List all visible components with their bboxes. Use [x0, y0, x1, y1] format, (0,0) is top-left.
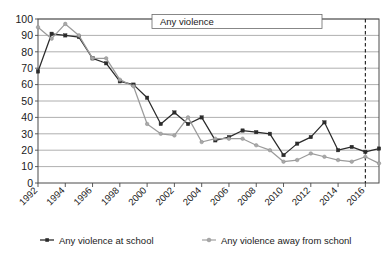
data-point-marker — [336, 158, 340, 162]
data-point-marker — [159, 122, 162, 125]
data-point-marker — [295, 142, 298, 145]
data-point-marker — [132, 84, 136, 88]
data-point-marker — [377, 162, 381, 166]
data-point-marker — [186, 116, 190, 120]
data-point-marker — [323, 121, 326, 124]
x-axis-tick-label: 2004 — [180, 185, 203, 208]
y-axis-tick-label: 100 — [15, 13, 33, 25]
data-point-marker — [295, 158, 299, 162]
y-axis-tick-label: 10 — [21, 160, 33, 172]
data-point-marker — [145, 122, 149, 126]
gridlines-group: 0102030405060708090100 — [15, 13, 379, 189]
data-point-marker — [50, 37, 54, 41]
chart-title-group: Any violence — [152, 15, 322, 29]
data-point-marker — [241, 137, 245, 141]
data-point-marker — [227, 137, 231, 141]
data-point-marker — [63, 22, 67, 26]
x-axis-tick-label: 1992 — [17, 185, 40, 208]
y-axis-tick-label: 70 — [21, 62, 33, 74]
x-axis-tick-label: 2000 — [126, 185, 149, 208]
data-point-marker — [36, 70, 39, 73]
y-axis-tick-label: 20 — [21, 144, 33, 156]
data-point-marker — [64, 34, 67, 37]
legend-group: Any violence at schoolAny violence away … — [40, 235, 351, 246]
data-point-marker — [282, 160, 286, 164]
data-point-marker — [255, 130, 258, 133]
y-axis-tick-label: 30 — [21, 128, 33, 140]
data-point-marker — [105, 62, 108, 65]
data-point-marker — [77, 34, 81, 38]
series-line-2 — [38, 24, 379, 163]
data-point-marker — [159, 132, 163, 136]
legend-item[interactable]: Any violence away from schonl — [202, 235, 351, 246]
x-axis-tick-label: 2006 — [208, 185, 231, 208]
x-axis-tick-label: 1998 — [99, 185, 122, 208]
data-point-marker — [323, 155, 327, 159]
data-point-marker — [364, 155, 368, 159]
y-axis-tick-label: 90 — [21, 29, 33, 41]
data-point-marker — [268, 148, 272, 152]
legend-item-label: Any violence at school — [59, 235, 154, 246]
line-chart: 0102030405060708090100199219941996199820… — [0, 0, 388, 259]
y-axis-tick-label: 80 — [21, 46, 33, 58]
data-point-marker — [282, 153, 285, 156]
data-point-marker — [91, 57, 95, 61]
x-axis-tick-label: 2008 — [235, 185, 258, 208]
data-point-marker — [200, 140, 204, 144]
y-axis-tick-label: 60 — [21, 78, 33, 90]
data-point-marker — [254, 143, 258, 147]
data-point-marker — [309, 152, 313, 156]
x-axis-tick-label: 1994 — [44, 185, 67, 208]
data-point-marker — [173, 134, 177, 138]
y-axis-tick-label: 50 — [21, 95, 33, 107]
y-axis-tick-label: 40 — [21, 111, 33, 123]
x-axis-tick-label: 2014 — [317, 185, 340, 208]
x-axis-tick-label: 2010 — [262, 185, 285, 208]
x-axis-group: 1992199419961998200020022004200620082010… — [17, 183, 367, 207]
legend-swatch-marker — [207, 238, 211, 242]
legend-item-label: Any violence away from schonl — [221, 235, 351, 246]
data-point-marker — [377, 147, 380, 150]
data-point-marker — [350, 145, 353, 148]
chart-container: 0102030405060708090100199219941996199820… — [0, 0, 388, 259]
data-point-marker — [50, 32, 53, 35]
series-markers-2 — [36, 22, 381, 165]
data-point-marker — [118, 78, 122, 82]
legend-swatch-marker — [45, 238, 49, 242]
data-point-marker — [350, 160, 354, 164]
data-point-marker — [309, 135, 312, 138]
x-axis-tick-label: 2016 — [344, 185, 367, 208]
data-point-marker — [104, 57, 108, 61]
data-point-marker — [200, 116, 203, 119]
data-point-marker — [186, 122, 189, 125]
x-axis-tick-label: 2002 — [153, 185, 176, 208]
x-axis-tick-label: 1996 — [71, 185, 94, 208]
data-point-marker — [145, 96, 148, 99]
data-point-marker — [173, 111, 176, 114]
legend-item[interactable]: Any violence at school — [40, 235, 154, 246]
chart-canvas: 0102030405060708090100199219941996199820… — [0, 0, 388, 259]
data-point-marker — [268, 132, 271, 135]
data-point-marker — [36, 25, 40, 29]
x-axis-tick-label: 2012 — [289, 185, 312, 208]
data-point-marker — [364, 150, 367, 153]
chart-title-text: Any violence — [160, 16, 214, 27]
data-point-marker — [336, 149, 339, 152]
data-point-marker — [241, 129, 244, 132]
data-point-marker — [214, 137, 218, 141]
